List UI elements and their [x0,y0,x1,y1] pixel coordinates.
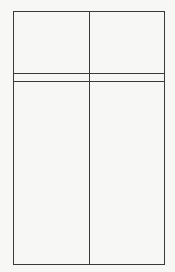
row-divider-bottom [14,81,164,82]
cell-bottom-left [16,83,88,263]
grid-frame [13,11,165,265]
cell-middle-right [92,74,164,80]
cell-top-right [92,14,164,72]
cell-bottom-right [92,83,164,263]
cell-top-left [16,14,88,72]
column-divider [89,12,90,264]
cell-middle-left [16,74,88,80]
